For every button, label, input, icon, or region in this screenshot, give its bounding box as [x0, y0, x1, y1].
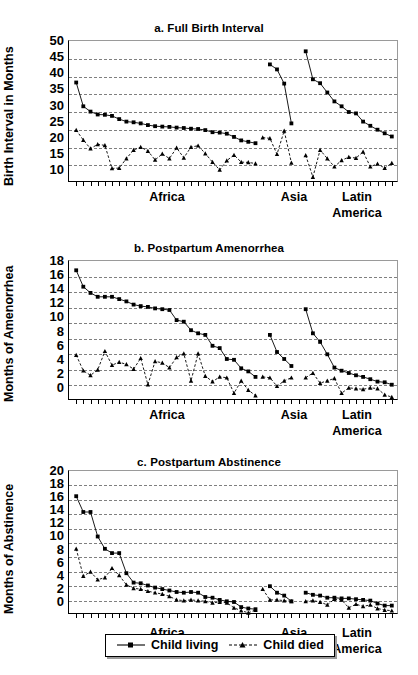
region-label-asia: Asia — [281, 408, 307, 422]
y-tick-label: 40 — [50, 66, 64, 79]
panel-c-plot-area — [68, 470, 398, 614]
legend-key-square — [116, 640, 146, 650]
panel-b-y-ticks: 181614121086420 — [38, 260, 64, 400]
panel-a-x-ticks — [69, 181, 397, 186]
y-tick-label: 8 — [57, 543, 64, 556]
panel-b-plot-area — [68, 260, 398, 400]
panel-c-x-ticks — [69, 613, 397, 618]
y-tick-label: 16 — [50, 268, 64, 281]
panel-b-y-axis-label: Months of Amenorrhea — [2, 256, 16, 411]
y-tick-label: 12 — [50, 296, 64, 309]
legend-key-triangle — [228, 640, 258, 650]
y-tick-label: 4 — [57, 569, 64, 582]
y-tick-label: 10 — [50, 163, 64, 176]
figure-three-panel-chart: a. Full Birth Interval Birth Interval in… — [0, 0, 418, 675]
y-tick-label: 12 — [50, 516, 64, 529]
panel-c-y-ticks: 20181614121086420 — [38, 470, 64, 614]
y-tick-label: 35 — [50, 82, 64, 95]
chart-panel-a: a. Full Birth Interval Birth Interval in… — [0, 0, 418, 228]
legend-label-child-living: Child living — [151, 638, 218, 652]
y-tick-label: 30 — [50, 99, 64, 112]
region-label-africa: Africa — [149, 190, 184, 204]
y-tick-label: 2 — [57, 582, 64, 595]
y-tick-label: 14 — [50, 503, 64, 516]
y-tick-label: 15 — [50, 147, 64, 160]
panel-a-y-axis-label: Birth Interval in Months — [2, 36, 16, 196]
y-tick-label: 50 — [50, 34, 64, 47]
chart-panel-b: b. Postpartum Amenorrhea Months of Ameno… — [0, 228, 418, 442]
y-tick-label: 0 — [57, 381, 64, 394]
y-tick-label: 6 — [57, 556, 64, 569]
region-label-latin: Latin — [342, 408, 372, 422]
panel-b-x-ticks — [69, 399, 397, 404]
region-label-america: America — [332, 642, 381, 656]
y-tick-label: 8 — [57, 325, 64, 338]
chart-panel-c: c. Postpartum Abstinence Months of Absti… — [0, 442, 418, 675]
panel-c-series — [69, 471, 399, 615]
y-tick-label: 6 — [57, 339, 64, 352]
legend-item-child-living: Child living — [116, 638, 218, 652]
chart-legend: Child living Child died — [105, 634, 335, 657]
y-tick-label: 10 — [50, 529, 64, 542]
region-label-africa: Africa — [149, 408, 184, 422]
y-tick-label: 14 — [50, 282, 64, 295]
panel-a-series — [69, 41, 399, 183]
region-label-latin: Latin — [342, 190, 372, 204]
panel-a-y-ticks: 504540353025201510 — [38, 40, 64, 182]
panel-b-series — [69, 261, 399, 401]
region-label-asia: Asia — [281, 190, 307, 204]
region-label-latin: Latin — [342, 626, 372, 640]
legend-label-child-died: Child died — [263, 638, 323, 652]
y-tick-label: 20 — [50, 131, 64, 144]
region-label-america: America — [332, 206, 381, 220]
panel-a-plot-area — [68, 40, 398, 182]
y-tick-label: 45 — [50, 50, 64, 63]
y-tick-label: 0 — [57, 595, 64, 608]
y-tick-label: 4 — [57, 353, 64, 366]
y-tick-label: 18 — [50, 254, 64, 267]
y-tick-label: 25 — [50, 115, 64, 128]
panel-c-y-axis-label: Months of Abstinence — [2, 466, 16, 631]
y-tick-label: 18 — [50, 477, 64, 490]
region-label-america: America — [332, 424, 381, 438]
legend-item-child-died: Child died — [228, 638, 323, 652]
y-tick-label: 20 — [50, 464, 64, 477]
y-tick-label: 10 — [50, 310, 64, 323]
y-tick-label: 2 — [57, 367, 64, 380]
y-tick-label: 16 — [50, 490, 64, 503]
